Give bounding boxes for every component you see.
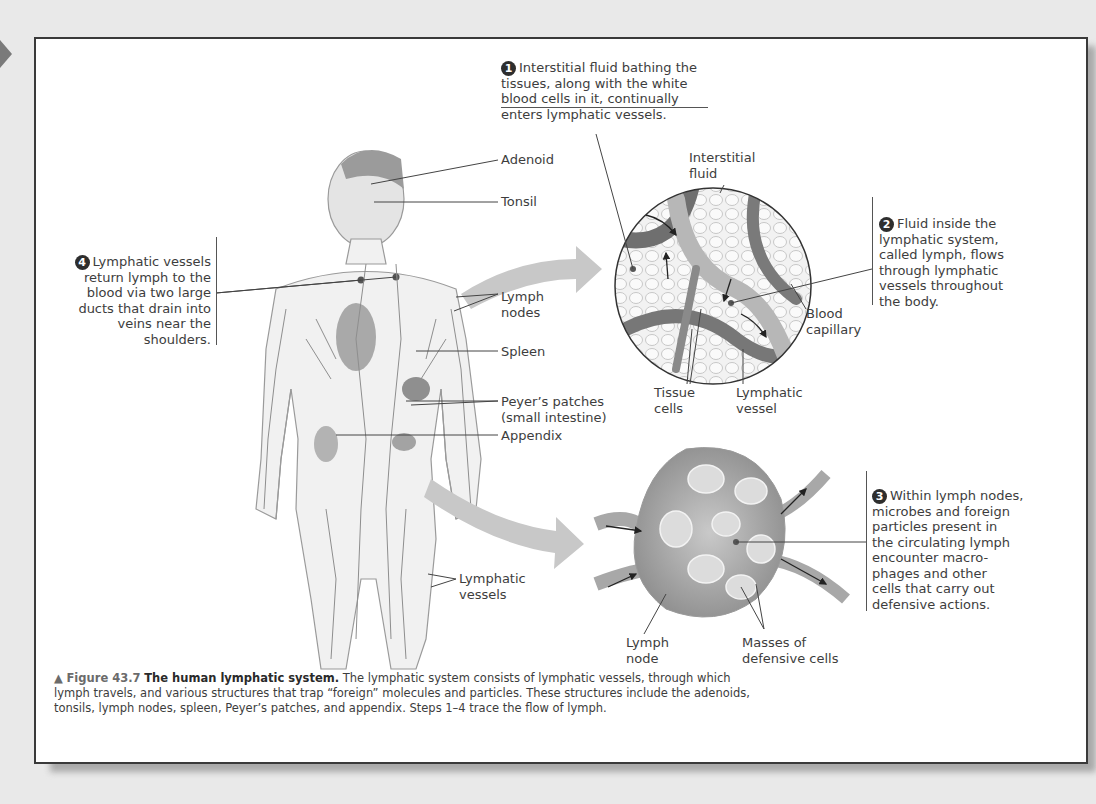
arrow-to-lymph-node <box>424 479 584 569</box>
triangle-up-icon: ▲ <box>54 671 63 685</box>
label-tonsil: Tonsil <box>501 194 537 210</box>
step-3-text: Within lymph nodes, microbes and foreign… <box>872 488 1023 612</box>
step-4-badge: 4 <box>75 255 90 270</box>
step-4-annotation: 4Lymphatic vessels return lymph to the b… <box>56 238 211 347</box>
step-2-text: Fluid inside the lymphatic system, calle… <box>879 216 1004 309</box>
step-1-annotation: 1Interstitial fluid bathing the tissues,… <box>501 44 771 122</box>
step-3-rule <box>866 471 867 611</box>
step-4-text: Lymphatic vessels return lymph to the bl… <box>78 254 211 347</box>
lymph-node-detail <box>596 448 846 617</box>
label-adenoid: Adenoid <box>501 152 554 168</box>
label-blood-capillary: Blood capillary <box>806 306 861 337</box>
step-1-badge: 1 <box>501 61 516 76</box>
label-peyers-patches: Peyer’s patches (small intestine) <box>501 394 607 425</box>
step-3-annotation: 3Within lymph nodes, microbes and foreig… <box>872 472 1072 612</box>
label-lymph-node: Lymph node <box>626 635 669 666</box>
page-marker-arrow-icon <box>0 40 12 68</box>
step-2-annotation: 2Fluid inside the lymphatic system, call… <box>879 200 1079 309</box>
label-interstitial-fluid: Interstitial fluid <box>689 150 755 181</box>
step-2-badge: 2 <box>879 217 894 232</box>
figure-title: The human lymphatic system. <box>144 671 339 685</box>
label-lymphatic-vessel: Lymphatic vessel <box>736 385 803 416</box>
figure-frame: 1Interstitial fluid bathing the tissues,… <box>34 37 1088 764</box>
step-4-rule <box>216 237 217 345</box>
step-1-underline <box>501 107 708 108</box>
label-lymph-nodes: Lymph nodes <box>501 289 544 320</box>
label-tissue-cells: Tissue cells <box>654 385 695 416</box>
human-body-figure <box>256 150 481 669</box>
step-3-badge: 3 <box>872 489 887 504</box>
capillary-detail-circle <box>615 188 811 389</box>
label-masses-defensive-cells: Masses of defensive cells <box>742 635 838 666</box>
label-appendix: Appendix <box>501 428 562 444</box>
figure-caption: ▲ Figure 43.7 The human lymphatic system… <box>54 671 754 716</box>
step-2-rule <box>872 197 873 305</box>
figure-number: Figure 43.7 <box>67 671 141 685</box>
step-1-text: Interstitial fluid bathing the tissues, … <box>501 60 697 122</box>
label-lymphatic-vessels: Lymphatic vessels <box>459 571 526 602</box>
label-spleen: Spleen <box>501 344 545 360</box>
